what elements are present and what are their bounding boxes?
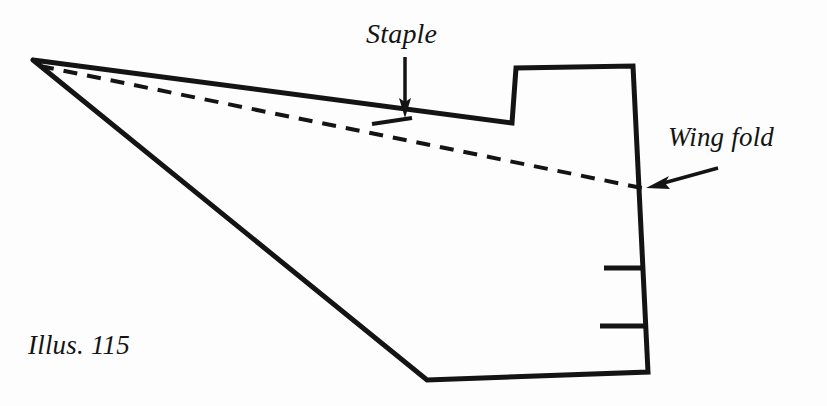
- illustration-figure: Staple Wing fold Illus. 115: [0, 0, 827, 406]
- fold-line: [40, 66, 642, 188]
- wing-fold-label: Wing fold: [668, 124, 774, 151]
- staple-mark: [372, 118, 412, 124]
- wing-fold-arrow: [646, 168, 718, 189]
- staple-label: Staple: [366, 20, 437, 48]
- figure-caption: Illus. 115: [28, 332, 130, 359]
